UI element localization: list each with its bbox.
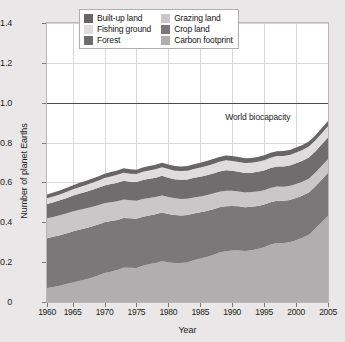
x-axis-tick-mark [168, 303, 169, 307]
legend-item[interactable]: Forest [84, 35, 151, 45]
x-axis-tick-label: 1985 [191, 307, 209, 317]
stacked-area-series [47, 23, 328, 302]
y-axis-tick-label: 1.2 [0, 58, 12, 68]
x-axis-tick-label: 2000 [287, 307, 305, 317]
y-axis-tick-label: 0.6 [0, 177, 12, 187]
x-axis-tick-mark [328, 303, 329, 307]
legend-item[interactable]: Grazing land [161, 13, 233, 23]
legend-item[interactable]: Carbon footprint [161, 35, 233, 45]
world-biocapacity-reference-line [47, 103, 328, 104]
x-axis-tick-label: 1980 [159, 307, 177, 317]
legend-item-label: Crop land [174, 24, 210, 34]
legend-item-label: Built-up land [97, 13, 142, 23]
legend-swatch-icon [161, 14, 170, 23]
legend-swatch-icon [161, 25, 170, 34]
legend-item[interactable]: Crop land [161, 24, 233, 34]
x-axis-tick-mark [73, 303, 74, 307]
x-axis-tick-label: 1995 [255, 307, 273, 317]
y-axis-tick-label: 1.0 [0, 98, 12, 108]
x-axis-tick-label: 1975 [128, 307, 146, 317]
y-axis-tick-label: 0.2 [0, 257, 12, 267]
x-axis-tick-mark [47, 303, 48, 307]
x-axis-tick-label: 2005 [319, 307, 337, 317]
legend-item[interactable]: Fishing ground [84, 24, 151, 34]
x-axis-label: Year [46, 325, 329, 335]
x-axis-tick-mark [136, 303, 137, 307]
x-axis-tick-label: 1970 [96, 307, 114, 317]
x-axis-tick-mark [105, 303, 106, 307]
y-axis-tick-label: 1.4 [0, 18, 12, 28]
plot-area: World biocapacity [46, 22, 329, 303]
y-axis-tick-label: 0.8 [0, 138, 12, 148]
y-axis-tick-label: 0 [0, 297, 12, 307]
y-axis-tick-label: 0.4 [0, 217, 12, 227]
world-biocapacity-annotation: World biocapacity [225, 112, 290, 122]
x-axis-tick-mark [232, 303, 233, 307]
gridline-vertical [328, 23, 329, 302]
legend-item[interactable]: Built-up land [84, 13, 151, 23]
chart-container: Number of planet Earths 00.20.40.60.81.0… [0, 0, 345, 342]
legend-swatch-icon [84, 25, 93, 34]
legend-swatch-icon [84, 14, 93, 23]
legend-item-label: Forest [97, 35, 120, 45]
legend-item-label: Fishing ground [97, 24, 151, 34]
legend-item-label: Grazing land [174, 13, 220, 23]
x-axis-tick-label: 1965 [64, 307, 82, 317]
chart-legend: Built-up landGrazing landFishing groundC… [79, 9, 239, 49]
x-axis-tick-mark [264, 303, 265, 307]
x-axis-tick-label: 1990 [223, 307, 241, 317]
x-axis-tick-label: 1960 [38, 307, 56, 317]
legend-item-label: Carbon footprint [174, 35, 233, 45]
legend-swatch-icon [161, 36, 170, 45]
legend-swatch-icon [84, 36, 93, 45]
y-axis-label: Number of planet Earths [19, 91, 29, 251]
x-axis-tick-mark [200, 303, 201, 307]
x-axis-tick-mark [296, 303, 297, 307]
